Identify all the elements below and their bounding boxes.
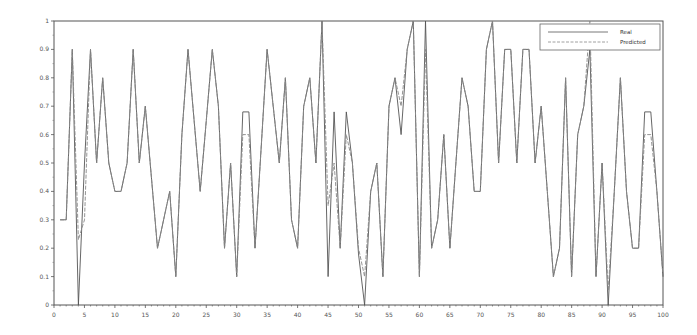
- x-tick-label: 5: [83, 311, 87, 318]
- x-tick-label: 75: [507, 311, 515, 318]
- x-tick-label: 55: [385, 311, 393, 318]
- plot-frame: [54, 21, 663, 305]
- x-tick-label: 60: [416, 311, 424, 318]
- legend-label-predicted: Predicted: [620, 39, 646, 45]
- x-tick-label: 100: [657, 311, 669, 318]
- line-chart: 00.10.20.30.40.50.60.70.80.91 0510152025…: [0, 0, 697, 335]
- x-tick-label: 10: [111, 311, 119, 318]
- y-tick-label: 0.7: [39, 102, 49, 109]
- x-tick-label: 35: [263, 311, 271, 318]
- x-tick-label: 50: [355, 311, 363, 318]
- y-tick-label: 0.9: [39, 45, 49, 52]
- y-tick-label: 0.8: [39, 74, 49, 81]
- x-tick-label: 90: [598, 311, 606, 318]
- series-layer: [60, 21, 663, 305]
- y-tick-label: 0.1: [39, 273, 49, 280]
- x-tick-label: 15: [142, 311, 150, 318]
- y-tick-label: 0.5: [39, 159, 49, 166]
- y-tick-label: 1: [45, 17, 49, 24]
- x-tick-label: 70: [476, 311, 484, 318]
- x-tick-label: 85: [568, 311, 576, 318]
- legend: Real Predicted: [540, 24, 660, 50]
- series-predicted: [60, 21, 663, 291]
- y-axis: 00.10.20.30.40.50.60.70.80.91: [39, 17, 54, 308]
- y-tick-label: 0.4: [39, 187, 49, 194]
- x-tick-label: 45: [324, 311, 332, 318]
- legend-box: [540, 24, 660, 50]
- y-tick-label: 0: [45, 301, 49, 308]
- x-tick-label: 20: [172, 311, 180, 318]
- x-tick-label: 65: [446, 311, 454, 318]
- legend-label-real: Real: [620, 29, 632, 35]
- x-tick-label: 80: [537, 311, 545, 318]
- x-tick-label: 95: [629, 311, 637, 318]
- x-tick-label: 0: [52, 311, 56, 318]
- x-axis: 0510152025303540455055606570758085909510…: [52, 305, 669, 318]
- x-tick-label: 40: [294, 311, 302, 318]
- y-tick-label: 0.6: [39, 131, 49, 138]
- y-tick-label: 0.3: [39, 216, 49, 223]
- x-tick-label: 30: [233, 311, 241, 318]
- x-tick-label: 25: [202, 311, 210, 318]
- y-tick-label: 0.2: [39, 244, 49, 251]
